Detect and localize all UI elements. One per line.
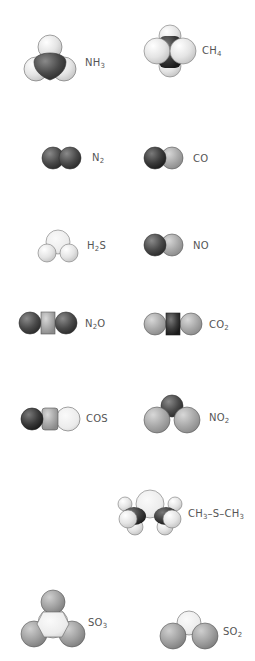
molecule-no2 [143,393,208,438]
nitrogen-dioxide-model-icon [143,393,208,438]
label-n2o: N2O [85,318,105,331]
molecule-co2 [143,310,208,340]
label-n2: N2 [92,152,104,165]
molecule-so3 [22,590,84,650]
sulfur-trioxide-model-icon [22,590,84,650]
nitrous-oxide-model-icon [18,309,83,339]
label-no2: NO2 [209,412,229,425]
label-co2: CO2 [209,319,229,332]
ammonia-model-icon [20,28,80,88]
label-cos: COS [86,413,108,426]
molecule-nh3 [20,28,80,88]
molecule-dimethyl-sulfide [115,490,185,540]
label-no: NO [193,240,209,253]
molecule-n2 [42,143,92,173]
label-so3: SO3 [88,617,107,630]
label-h2s: H2S [87,240,106,253]
molecule-no [143,231,193,261]
methane-model-icon [140,22,200,82]
label-ch4: CH4 [202,45,222,58]
molecule-so2 [160,608,222,653]
molecule-h2s [36,226,86,266]
nitric-oxide-model-icon [143,231,193,261]
hydrogen-sulfide-model-icon [36,226,86,266]
molecule-cos [20,405,85,435]
molecule-n2o [18,309,83,339]
dimethyl-sulfide-model-icon [115,490,185,540]
nitrogen-model-icon [42,143,92,173]
label-nh3: NH3 [85,57,105,70]
label-so2: SO2 [223,626,242,639]
carbon-dioxide-model-icon [143,310,208,340]
label-dimethyl-sulfide: CH3–S–CH3 [188,508,244,521]
sulfur-dioxide-model-icon [160,608,222,653]
carbon-monoxide-model-icon [143,143,193,173]
molecule-co [143,143,193,173]
carbonyl-sulfide-model-icon [20,405,85,435]
label-co: CO [193,153,208,166]
molecule-ch4 [140,22,200,82]
